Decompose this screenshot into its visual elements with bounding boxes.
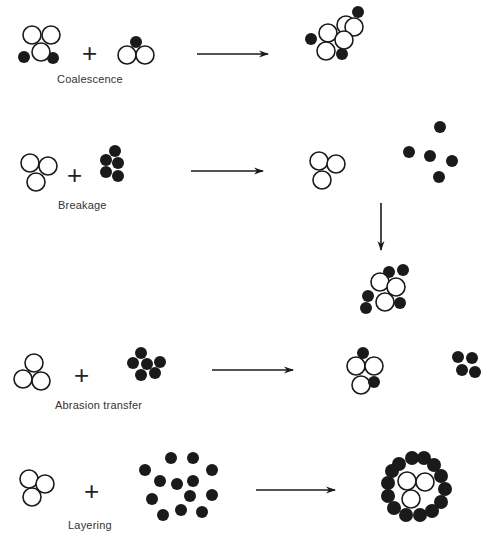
mechanism-label-breakage: Breakage: [58, 199, 107, 211]
open-particle: [118, 46, 136, 64]
abrasion-transfer-reactant-1: [14, 354, 50, 390]
coalescence-reactant-2: [118, 36, 154, 64]
mechanism-coalescence: [18, 6, 364, 64]
filled-particle: [469, 366, 481, 378]
open-particle: [365, 357, 383, 375]
filled-particle: [18, 51, 30, 63]
filled-particle: [387, 501, 401, 515]
filled-particle: [368, 376, 380, 388]
plus-icon: +: [82, 40, 97, 66]
open-particle: [313, 171, 331, 189]
filled-particle: [130, 36, 142, 48]
filled-particle: [434, 469, 448, 483]
breakage-reactant-2: [100, 145, 124, 182]
filled-particle: [141, 358, 153, 370]
open-particle: [42, 26, 60, 44]
open-particle: [14, 370, 32, 388]
filled-particle: [305, 33, 317, 45]
abrasion-transfer-product-open: [347, 357, 383, 394]
filled-particle: [100, 154, 112, 166]
open-particle: [23, 26, 41, 44]
filled-particle: [456, 364, 468, 376]
filled-particle: [381, 489, 395, 503]
filled-particle: [135, 369, 147, 381]
abrasion-transfer-reactant-2: [127, 347, 166, 381]
mechanism-label-coalescence: Coalescence: [57, 73, 123, 85]
open-particle: [402, 490, 420, 508]
open-particle: [376, 293, 394, 311]
open-particle: [27, 173, 45, 191]
filled-particle: [466, 352, 478, 364]
open-particle: [25, 354, 43, 372]
filled-particle: [438, 482, 452, 496]
filled-particle: [149, 367, 161, 379]
plus-icon: +: [84, 478, 99, 504]
filled-particle: [206, 464, 218, 476]
filled-particle: [154, 475, 166, 487]
open-particle: [347, 357, 365, 375]
filled-particle: [362, 290, 374, 302]
filled-particle: [360, 302, 372, 314]
filled-particle: [127, 357, 139, 369]
layering-reactant-2: [139, 452, 218, 521]
filled-particle: [397, 264, 409, 276]
open-particle: [335, 31, 353, 49]
filled-particle: [433, 171, 445, 183]
open-particle: [32, 372, 50, 390]
open-particle: [398, 472, 416, 490]
filled-particle: [196, 506, 208, 518]
filled-particle: [112, 157, 124, 169]
filled-particle: [413, 508, 427, 522]
filled-particle: [352, 6, 364, 18]
filled-particle: [424, 150, 436, 162]
breakage-recombined: [360, 264, 409, 314]
open-particle: [32, 43, 50, 61]
breakage-product-open: [310, 152, 345, 189]
coalescence-reactant-1: [18, 26, 60, 64]
open-particle: [136, 46, 154, 64]
filled-particle: [146, 493, 158, 505]
plus-icon: +: [74, 362, 89, 388]
open-particle: [416, 473, 434, 491]
filled-particle: [139, 464, 151, 476]
open-particle: [39, 157, 57, 175]
filled-particle: [109, 145, 121, 157]
layering-product-core: [398, 472, 434, 508]
breakage-product-filled: [403, 121, 458, 183]
open-particle: [387, 278, 405, 296]
mechanism-breakage: [21, 121, 458, 314]
coalescence-product: [305, 6, 364, 60]
plus-icon: +: [67, 162, 82, 188]
filled-particle: [425, 504, 439, 518]
filled-particle: [112, 170, 124, 182]
filled-particle: [175, 504, 187, 516]
filled-particle: [394, 297, 406, 309]
open-particle: [327, 155, 345, 173]
open-particle: [352, 376, 370, 394]
filled-particle: [403, 146, 415, 158]
filled-particle: [446, 155, 458, 167]
filled-particle: [385, 464, 399, 478]
mechanism-label-abrasion-transfer: Abrasion transfer: [55, 399, 142, 411]
filled-particle: [171, 478, 183, 490]
filled-particle: [157, 509, 169, 521]
mechanism-label-layering: Layering: [68, 519, 112, 531]
filled-particle: [405, 451, 419, 465]
filled-particle: [187, 475, 199, 487]
open-particle: [317, 42, 335, 60]
filled-particle: [381, 476, 395, 490]
filled-particle: [100, 166, 112, 178]
filled-particle: [452, 351, 464, 363]
filled-particle: [434, 121, 446, 133]
layering-reactant-1: [20, 470, 54, 506]
filled-particle: [399, 508, 413, 522]
abrasion-transfer-product-fragment: [452, 351, 481, 378]
open-particle: [23, 488, 41, 506]
filled-particle: [336, 48, 348, 60]
filled-particle: [184, 490, 196, 502]
breakage-reactant-1: [21, 154, 57, 191]
open-particle: [310, 152, 328, 170]
filled-particle: [135, 347, 147, 359]
filled-particle: [154, 356, 166, 368]
filled-particle: [165, 452, 177, 464]
